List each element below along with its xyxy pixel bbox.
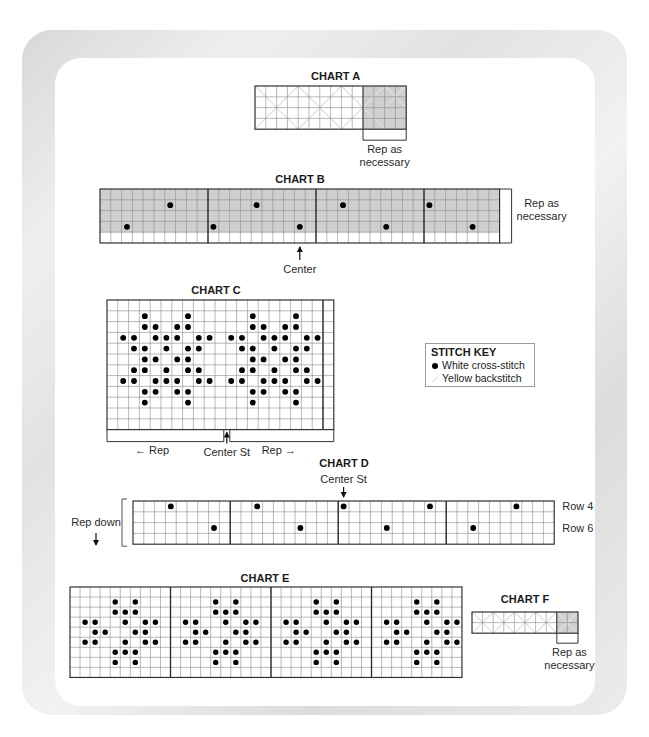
chart-e [70, 587, 462, 677]
cross-stitch-dot [271, 346, 277, 352]
cross-stitch-dot [261, 378, 267, 384]
cross-stitch-dot [113, 599, 118, 604]
cross-stitch-dot [324, 619, 329, 624]
cross-stitch-dot [143, 619, 148, 624]
cross-stitch-dot [233, 630, 238, 635]
cross-stitch-dot [271, 335, 277, 341]
cross-stitch-dot [185, 367, 191, 373]
cross-stitch-dot [304, 367, 310, 373]
cross-stitch-dot [297, 224, 303, 230]
cross-stitch-dot [196, 335, 202, 341]
cross-stitch-dot [131, 367, 137, 373]
label: Rep as [367, 143, 402, 155]
cross-stitch-dot [271, 367, 277, 373]
cross-stitch-dot [233, 609, 238, 614]
cross-stitch-dot [315, 378, 321, 384]
cross-stitch-dot [334, 599, 339, 604]
cross-stitch-dot [185, 356, 191, 362]
cross-stitch-dot [143, 640, 148, 645]
cross-stitch-dot [142, 356, 148, 362]
cross-stitch-dot [142, 346, 148, 352]
cross-stitch-dot [210, 224, 216, 230]
cross-stitch-dot [153, 640, 158, 645]
cross-stitch-dot [243, 640, 248, 645]
cross-stitch-dot [470, 224, 476, 230]
stitch-key-label: Yellow backstitch [442, 372, 522, 385]
cross-stitch-dot [424, 640, 429, 645]
cross-stitch-dot [344, 630, 349, 635]
cross-stitch-dot [434, 660, 439, 665]
cross-stitch-dot [174, 378, 180, 384]
cross-stitch-dot [213, 660, 218, 665]
cross-stitch-dot [131, 335, 137, 341]
cross-stitch-dot [434, 609, 439, 614]
cross-stitch-dot [142, 324, 148, 330]
cross-stitch-dot [334, 630, 339, 635]
cross-stitch-dot [250, 313, 256, 319]
cross-stitch-dot [163, 346, 169, 352]
cross-stitch-dot [113, 609, 118, 614]
cross-stitch-dot [133, 630, 138, 635]
cross-stitch-dot [213, 650, 218, 655]
label: CHART C [191, 284, 241, 296]
cross-stitch-dot [434, 650, 439, 655]
cross-stitch-dot [142, 400, 148, 406]
cross-stitch-dot [394, 619, 399, 624]
cross-stitch-dot [250, 400, 256, 406]
cross-stitch-dot [434, 599, 439, 604]
cross-stitch-dot [271, 378, 277, 384]
label: Row 6 [562, 522, 593, 534]
cross-stitch-dot [211, 525, 217, 531]
cross-stitch-dot [228, 335, 234, 341]
cross-stitch-dot [334, 609, 339, 614]
cross-stitch-dot [384, 640, 389, 645]
cross-stitch-dot [434, 630, 439, 635]
cross-stitch-dot [123, 609, 128, 614]
cross-stitch-dot [383, 224, 389, 230]
cross-stitch-dot [193, 640, 198, 645]
cross-stitch-dot [196, 346, 202, 352]
label: Row 4 [562, 500, 593, 512]
label: necessary [360, 156, 411, 168]
cross-stitch-dot [143, 630, 148, 635]
cross-stitch-dot [228, 378, 234, 384]
chart-f [472, 612, 578, 633]
cross-stitch-dot [233, 599, 238, 604]
cross-stitch-dot [253, 640, 258, 645]
cross-stitch-dot [293, 400, 299, 406]
cross-stitch-dot [293, 367, 299, 373]
cross-stitch-dot [250, 367, 256, 373]
cross-stitch-dot [250, 389, 256, 395]
cross-stitch-dot [304, 346, 310, 352]
cross-stitch-dot [142, 367, 148, 373]
cross-stitch-dot [414, 650, 419, 655]
cross-stitch-dot [282, 378, 288, 384]
cross-stitch-dot [213, 599, 218, 604]
label: Center [283, 263, 316, 275]
cross-stitch-dot [123, 650, 128, 655]
cross-stitch-dot [223, 640, 228, 645]
cross-stitch-dot [303, 630, 308, 635]
cross-stitch-dot [239, 367, 245, 373]
backstitch-line-icon [431, 375, 439, 383]
chart-d [133, 501, 554, 544]
cross-stitch-dot [92, 619, 97, 624]
cross-stitch-dot [203, 630, 208, 635]
cross-stitch-dot [153, 324, 159, 330]
label: CHART D [319, 457, 369, 469]
cross-stitch-dot [185, 389, 191, 395]
stitch-key-item-yellow-backstitch: Yellow backstitch [431, 372, 529, 385]
cross-stitch-dot [253, 619, 258, 624]
cross-stitch-dot [470, 525, 476, 531]
cross-stitch-dot [223, 619, 228, 624]
cross-stitch-dot [334, 660, 339, 665]
cross-stitch-dot [223, 609, 228, 614]
cross-stitch-dot [207, 378, 213, 384]
cross-stitch-dot [133, 660, 138, 665]
cross-stitch-dot [394, 630, 399, 635]
cross-stitch-dot [297, 525, 303, 531]
cross-stitch-dot [185, 313, 191, 319]
cross-stitch-dot [113, 650, 118, 655]
cross-stitch-dot [174, 356, 180, 362]
cross-stitch-dot [404, 630, 409, 635]
